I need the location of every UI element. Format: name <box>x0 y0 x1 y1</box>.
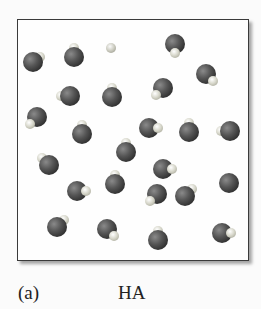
a-atom <box>102 87 122 107</box>
a-atom <box>148 230 168 250</box>
a-atom <box>72 124 92 144</box>
h-atom <box>167 164 177 174</box>
a-atom <box>23 52 43 72</box>
h-atom <box>226 228 236 238</box>
h-atom <box>151 90 161 100</box>
caption-label: HA <box>118 282 145 304</box>
a-atom <box>219 173 239 193</box>
a-atom <box>116 142 136 162</box>
a-atom <box>60 86 80 106</box>
a-atom <box>105 174 125 194</box>
a-atom <box>64 47 84 67</box>
h-atom <box>25 119 35 129</box>
a-atom <box>39 155 59 175</box>
a-atom <box>47 217 67 237</box>
a-atom <box>179 122 199 142</box>
h-atom <box>208 76 218 86</box>
h-atom <box>109 231 119 241</box>
h-atom <box>145 196 155 206</box>
lone-h-particle <box>106 43 116 53</box>
h-atom <box>153 123 163 133</box>
panel-label: (a) <box>18 282 39 304</box>
h-atom <box>170 48 180 58</box>
a-atom <box>175 186 195 206</box>
a-atom <box>220 121 240 141</box>
h-atom <box>81 186 91 196</box>
